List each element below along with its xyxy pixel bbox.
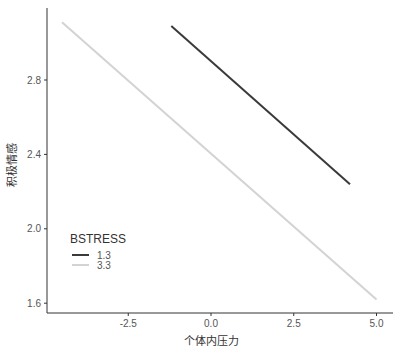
y-tick-label: 2.4 bbox=[27, 149, 41, 160]
x-tick-label: 2.5 bbox=[287, 318, 301, 329]
x-tick-label: 5.0 bbox=[370, 318, 384, 329]
x-axis-title: 个体内压力 bbox=[184, 334, 239, 348]
legend-label: 3.3 bbox=[97, 260, 111, 271]
legend-title: BSTRESS bbox=[70, 232, 126, 246]
y-tick-label: 2.0 bbox=[27, 223, 41, 234]
y-tick-label: 1.6 bbox=[27, 298, 41, 309]
interaction-line-chart: 1.62.02.42.8 -2.50.02.55.0 个体内压力 积极情感 BS… bbox=[0, 0, 403, 356]
y-axis-ticks: 1.62.02.42.8 bbox=[27, 75, 47, 309]
series-line-1-3 bbox=[171, 26, 350, 184]
x-tick-label: 0.0 bbox=[204, 318, 218, 329]
y-tick-label: 2.8 bbox=[27, 75, 41, 86]
x-axis-ticks: -2.50.02.55.0 bbox=[120, 313, 384, 329]
legend: BSTRESS 1.33.3 bbox=[70, 232, 126, 271]
x-tick-label: -2.5 bbox=[120, 318, 138, 329]
y-axis-title: 积极情感 bbox=[5, 143, 19, 187]
